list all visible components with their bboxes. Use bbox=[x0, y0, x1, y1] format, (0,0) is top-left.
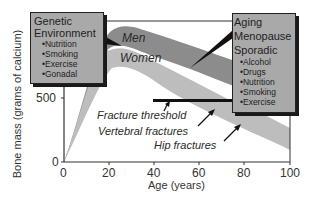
x-tick-label: 40 bbox=[147, 166, 160, 180]
callout-item: •Smoking bbox=[34, 49, 103, 59]
x-tick-label: 80 bbox=[237, 166, 250, 180]
y-tick-label-0: 0 bbox=[52, 155, 59, 169]
callout-item: •Exercise bbox=[234, 97, 295, 107]
x-tick-label: 0 bbox=[60, 166, 67, 180]
x-tick-label: 100 bbox=[280, 166, 300, 180]
x-axis-title: Age (years) bbox=[148, 179, 205, 191]
aging-menopause-callout: Aging Menopause Sporadic •Alcohol •Drugs… bbox=[232, 13, 296, 113]
callout-item: •Smoking bbox=[234, 87, 295, 97]
fracture-threshold-label: Fracture threshold bbox=[97, 109, 186, 121]
y-axis-title: Bone mass (grams of calcium) bbox=[11, 29, 23, 179]
callout-heading: Menopause bbox=[234, 29, 295, 43]
genetic-environment-callout: Genetic Environment •Nutrition •Smoking … bbox=[30, 12, 104, 84]
men-label: Men bbox=[122, 31, 145, 45]
vertebral-fractures-label: Vertebral fractures bbox=[98, 125, 188, 137]
callout-item: •Nutrition bbox=[34, 39, 103, 49]
callout-heading: Genetic bbox=[34, 15, 103, 27]
x-tick-label: 60 bbox=[192, 166, 205, 180]
hip-arrow-icon bbox=[224, 124, 241, 141]
callout-item: •Drugs bbox=[234, 67, 295, 77]
callout-heading: Environment bbox=[34, 27, 103, 39]
hip-fractures-label: Hip fractures bbox=[154, 139, 216, 151]
callout-item: •Nutrition bbox=[234, 77, 295, 87]
vertebral-arrow-icon bbox=[198, 109, 215, 126]
women-label: Women bbox=[120, 51, 161, 65]
callout-heading: Sporadic bbox=[234, 43, 295, 57]
x-tick-label: 20 bbox=[102, 166, 115, 180]
y-tick-label-500: 500 bbox=[36, 91, 56, 105]
callout-heading: Aging bbox=[234, 15, 295, 29]
callout-item: •Gonadal bbox=[34, 69, 103, 79]
callout-item: •Exercise bbox=[34, 59, 103, 69]
callout-item: •Alcohol bbox=[234, 57, 295, 67]
